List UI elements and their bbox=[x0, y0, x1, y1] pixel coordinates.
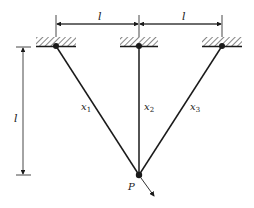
bar-x1 bbox=[56, 46, 139, 175]
member-x2-label: x2 bbox=[144, 101, 154, 114]
height-label: l bbox=[14, 112, 18, 125]
pin-middle bbox=[136, 43, 142, 49]
pin-right bbox=[219, 43, 225, 49]
member-x1-label: x1 bbox=[81, 101, 91, 114]
span-left-label: l bbox=[98, 10, 102, 23]
load-label: P bbox=[127, 181, 135, 192]
load-arrow-icon bbox=[141, 178, 154, 196]
span-dimension: l l bbox=[56, 10, 222, 37]
truss-diagram: l l l x1 x2 x3 P bbox=[0, 0, 254, 208]
height-dimension: l bbox=[14, 47, 31, 175]
span-right-label: l bbox=[182, 10, 186, 23]
load-node bbox=[136, 172, 142, 178]
member-x3-label: x3 bbox=[190, 101, 200, 114]
pin-left bbox=[53, 43, 59, 49]
